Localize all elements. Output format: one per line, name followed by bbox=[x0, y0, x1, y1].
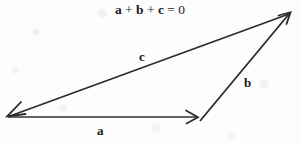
vector-b-label: b bbox=[244, 76, 251, 89]
equation-plus-1: + bbox=[122, 2, 136, 17]
equation-term-a: a bbox=[115, 2, 122, 17]
equation-term-b: b bbox=[136, 2, 144, 17]
vector-a-arrow bbox=[8, 111, 198, 124]
equation-plus-2: + bbox=[144, 2, 158, 17]
vector-b-arrow bbox=[200, 12, 291, 121]
equation-zero: 0 bbox=[178, 2, 185, 17]
vector-c-label: c bbox=[139, 50, 145, 63]
vector-diagram-figure: a + b + c = 0 a b c bbox=[0, 0, 300, 146]
vector-sum-equation: a + b + c = 0 bbox=[0, 3, 300, 17]
vector-canvas bbox=[0, 0, 300, 146]
vector-a-label: a bbox=[97, 124, 104, 137]
equation-equals-sign: = bbox=[164, 2, 178, 17]
